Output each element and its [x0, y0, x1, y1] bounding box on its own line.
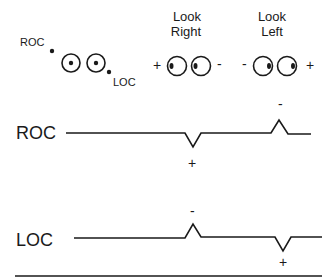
loc-trace-label: LOC	[16, 231, 53, 249]
look-right-eyes-icon	[168, 57, 211, 76]
look-left-line1: Look	[255, 10, 289, 23]
loc-legend-label: LOC	[113, 77, 136, 88]
roc-trace-label: ROC	[16, 124, 56, 142]
look-left-line2: Left	[255, 25, 289, 38]
roc-electrode-dot	[50, 49, 54, 53]
electrode-legend-eyes	[50, 49, 111, 74]
loc-trace-line	[74, 224, 322, 251]
roc-legend-label: ROC	[20, 37, 44, 48]
roc-minus-marker: -	[278, 97, 283, 111]
roc-plus-marker: +	[188, 156, 196, 170]
look-right-plus-sign: +	[153, 58, 161, 72]
look-left-minus-sign: -	[242, 57, 247, 71]
loc-plus-marker: +	[279, 255, 287, 269]
look-right-minus-sign: -	[217, 57, 222, 71]
roc-trace-line	[66, 120, 311, 147]
look-left-plus-sign: +	[306, 58, 314, 72]
loc-electrode-dot	[107, 70, 111, 74]
loc-minus-marker: -	[190, 204, 195, 218]
look-right-line2: Right	[166, 25, 206, 38]
look-right-line1: Look	[170, 10, 204, 23]
look-left-eyes-icon	[254, 57, 297, 76]
